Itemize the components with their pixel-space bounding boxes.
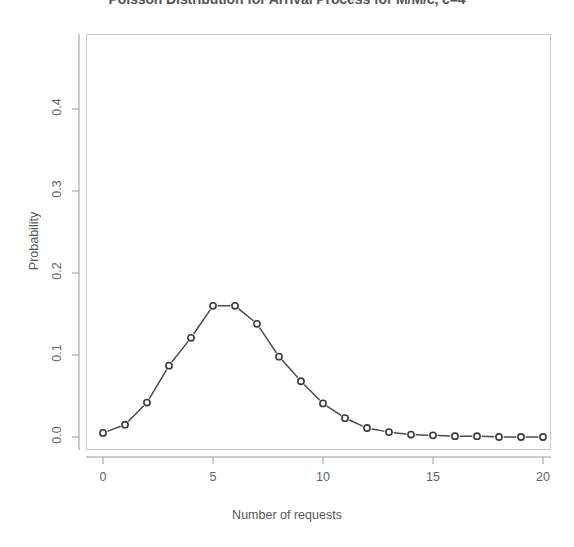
plot-panel [86,34,551,450]
y-tick-label: 0.2 [50,247,64,295]
y-axis-title: Probability [27,181,41,301]
chart-figure: Poisson Distribution for Arrival Process… [0,0,574,547]
x-tick-label: 10 [298,470,348,484]
chart-title: Poisson Distribution for Arrival Process… [0,0,574,7]
x-axis-title: Number of requests [0,508,574,522]
y-tick-label: 0.1 [50,329,64,377]
x-tick-label: 20 [518,470,568,484]
x-tick-label: 15 [408,470,458,484]
x-tick-label: 0 [78,470,128,484]
x-axis-ticks [103,457,543,464]
y-tick-label: 0.3 [50,165,64,213]
y-tick-label: 0.0 [50,411,64,459]
y-tick-label: 0.4 [50,83,64,131]
x-tick-label: 5 [188,470,238,484]
y-axis-ticks [72,109,79,437]
